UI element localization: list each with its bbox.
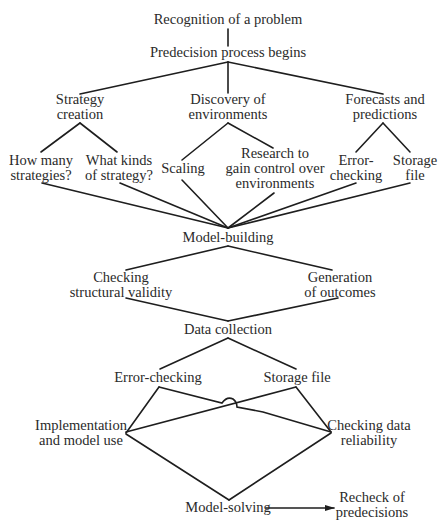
edge-generation-to-data-collection — [228, 298, 338, 321]
node-label: gain control over — [225, 160, 324, 176]
node-label: reliability — [341, 432, 398, 448]
node-label: and model use — [39, 432, 123, 448]
edge-model-building-to-checking-structural — [126, 246, 228, 270]
node-recognition: Recognition of a problem — [154, 11, 303, 27]
edge-implementation-modelsolving — [126, 434, 229, 500]
node-recheck: Recheck ofpredecisions — [336, 489, 409, 520]
node-label: Storage — [393, 152, 437, 168]
node-label: Strategy — [56, 91, 105, 107]
edge-predecision-to-strategy — [80, 62, 228, 94]
edge-dcerror-checkingdata — [159, 387, 331, 432]
node-strategy: Strategycreation — [56, 91, 105, 122]
node-label: Error- — [338, 152, 373, 168]
node-label: Generation — [308, 269, 373, 285]
node-model-solving: Model-solving — [185, 499, 270, 515]
node-label: Model-building — [182, 229, 273, 245]
node-label: Checking — [93, 269, 149, 285]
node-label: predictions — [353, 106, 418, 122]
edge-forecasts-to-fc-error — [356, 123, 383, 152]
node-predecision: Predecision process begins — [150, 44, 307, 60]
edge-dcstorage-implementation — [126, 387, 296, 432]
node-label: Discovery of — [190, 91, 265, 107]
decision-process-diagram: Recognition of a problemPredecision proc… — [0, 0, 442, 523]
node-label: Model-solving — [185, 499, 270, 515]
node-what-kinds: What kindsof strategy? — [85, 152, 153, 183]
node-label: structural validity — [70, 284, 173, 300]
node-model-building: Model-building — [182, 229, 273, 245]
node-label: Data collection — [184, 321, 273, 337]
node-label: Research to — [241, 145, 309, 161]
edge-strategy-to-what-kinds — [80, 123, 117, 152]
node-label: Implementation — [35, 417, 128, 433]
edge-model-building-to-generation — [228, 246, 332, 270]
node-label: creation — [57, 106, 104, 122]
node-discovery: Discovery ofenvironments — [189, 91, 268, 122]
node-label: Recheck of — [339, 489, 405, 505]
edge-checkingdata-modelsolving — [229, 433, 331, 500]
node-dc-error: Error-checking — [114, 369, 201, 385]
node-how-many: How manystrategies? — [9, 152, 74, 183]
node-label: environments — [236, 175, 315, 191]
node-label: Forecasts and — [345, 91, 425, 107]
edge-data-collection-to-dc-error — [160, 338, 228, 369]
edge-group — [41, 29, 410, 369]
node-group: Recognition of a problemPredecision proc… — [9, 11, 437, 520]
node-label: Recognition of a problem — [154, 11, 303, 27]
node-label: Checking data — [327, 417, 411, 433]
node-label: of outcomes — [304, 284, 376, 300]
edge-checking-structural-to-data-collection — [126, 298, 228, 321]
edge-data-collection-to-dc-storage — [228, 338, 296, 369]
node-label: Predecision process begins — [150, 44, 307, 60]
node-checking-structural: Checkingstructural validity — [70, 269, 173, 300]
node-label: Error-checking — [114, 369, 201, 385]
node-label: environments — [189, 106, 268, 122]
edge-discovery-to-scaling — [182, 123, 228, 160]
node-research: Research togain control overenvironments — [225, 145, 324, 191]
edge-dcerror-implementation — [126, 387, 159, 433]
node-label: of strategy? — [85, 167, 153, 183]
edge-predecision-to-forecasts — [228, 62, 383, 94]
node-forecasts: Forecasts andpredictions — [345, 91, 425, 122]
node-fc-storage: Storagefile — [393, 152, 437, 183]
node-label: Scaling — [161, 160, 205, 176]
node-label: strategies? — [10, 167, 71, 183]
node-label: Storage file — [263, 369, 330, 385]
node-generation: Generationof outcomes — [304, 269, 376, 300]
node-fc-error: Error-checking — [330, 152, 382, 183]
node-implementation: Implementationand model use — [35, 417, 128, 448]
node-label: What kinds — [86, 152, 153, 168]
edge-strategy-to-how-many — [41, 123, 80, 152]
node-label: predecisions — [336, 504, 409, 520]
lower-loop-edges — [126, 387, 331, 500]
node-label: file — [405, 167, 424, 183]
node-checking-data: Checking datareliability — [327, 417, 411, 448]
node-label: checking — [330, 167, 382, 183]
node-data-collection: Data collection — [184, 321, 273, 337]
node-scaling: Scaling — [161, 160, 205, 176]
edge-forecasts-to-fc-storage — [383, 123, 410, 152]
edge-dcstorage-checkingdata — [296, 387, 331, 432]
edge-scaling-to-model-building — [182, 180, 228, 228]
node-label: How many — [9, 152, 74, 168]
node-dc-storage: Storage file — [263, 369, 330, 385]
